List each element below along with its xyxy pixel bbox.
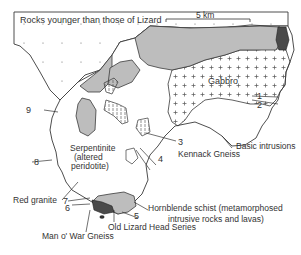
- younger-rocks-label: Rocks younger than those of Lizard: [20, 16, 162, 25]
- gabbro-label: Gabbro: [208, 77, 238, 86]
- callout-8: 8: [34, 158, 39, 167]
- hornblende-schist-label: Hornblende schist (metamorphosed: [148, 204, 283, 213]
- callout-7: 7: [63, 197, 68, 206]
- callout-9: 9: [26, 106, 31, 115]
- kennack-gneiss-label: Kennack Gneiss: [178, 150, 240, 159]
- old-lizard-head-label: Old Lizard Head Series: [108, 223, 196, 232]
- callout-2: 2: [257, 101, 262, 110]
- callout-3: 3: [178, 138, 183, 147]
- basic-intrusions-label: Basic intrusions: [236, 142, 296, 151]
- scale-bar-label: 5 km: [196, 11, 214, 20]
- callout-4: 4: [158, 155, 163, 164]
- red-granite-label: Red granite: [13, 196, 57, 205]
- serpentinite-label-3: peridotite): [71, 162, 109, 171]
- man-o-war-label: Man o' War Gneiss: [42, 232, 114, 241]
- callout-5: 5: [134, 212, 139, 221]
